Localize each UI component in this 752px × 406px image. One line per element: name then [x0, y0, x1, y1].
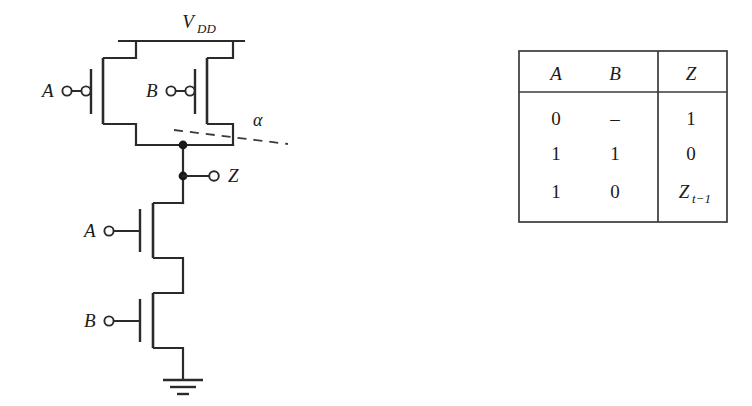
truth-table-header-z: Z [686, 63, 697, 84]
cell-a-row2: 1 [551, 181, 561, 202]
nmos-a-input-label: A [82, 220, 96, 241]
ground-icon [163, 380, 203, 394]
z-output-terminal[interactable] [209, 171, 219, 181]
vdd-label: V DD [182, 11, 216, 36]
cmos-circuit-group: V DD A [40, 11, 288, 394]
truth-table-row: 1 0 Z t−1 [551, 181, 711, 206]
pmos-b-input-terminal[interactable] [166, 86, 175, 95]
nmos-a-group: A [82, 203, 183, 293]
pmos-a-inverter-bubble-icon [81, 86, 90, 95]
junction-dot-top [179, 141, 188, 150]
truth-table-row: 0 – 1 [551, 108, 696, 129]
cell-a-row0: 0 [551, 108, 561, 129]
cell-z-row1: 0 [686, 143, 696, 164]
nmos-b-input-label: B [84, 310, 96, 331]
cell-a-row1: 1 [551, 143, 561, 164]
pmos-b-inverter-bubble-icon [185, 86, 194, 95]
truth-table-group: A B Z 0 – 1 1 1 0 1 0 Z t−1 [519, 51, 727, 222]
cell-z-row2: Z [679, 181, 690, 202]
truth-table-header-b: B [609, 63, 621, 84]
cell-b-row1: 1 [610, 143, 620, 164]
truth-table-header-a: A [548, 63, 562, 84]
pmos-a-drain-wire [104, 124, 136, 145]
cell-b-row0: – [609, 108, 620, 129]
vdd-label-main: V [182, 11, 196, 32]
vdd-label-subscript: DD [196, 21, 216, 36]
alpha-label: α [253, 110, 263, 130]
nmos-a-input-terminal[interactable] [104, 226, 113, 235]
pmos-b-group: B [146, 41, 233, 145]
cell-b-row2: 0 [610, 181, 620, 202]
pmos-a-input-label: A [40, 80, 54, 101]
z-output-label: Z [228, 165, 239, 186]
nmos-b-source-wire [154, 348, 183, 380]
pmos-a-source-wire [104, 41, 136, 58]
z-output-group: Z [183, 165, 239, 186]
cell-z-row0: 1 [686, 108, 696, 129]
nmos-a-source-wire [154, 258, 183, 293]
pmos-b-source-wire [208, 41, 233, 58]
figure-canvas: V DD A [0, 0, 752, 406]
truth-table-row: 1 1 0 [551, 143, 696, 164]
nmos-b-group: B [84, 293, 183, 380]
pmos-a-input-terminal[interactable] [62, 86, 71, 95]
cell-z-row2-subscript: t−1 [692, 191, 711, 206]
nmos-b-input-terminal[interactable] [104, 316, 113, 325]
alpha-dashed-line [174, 130, 288, 144]
pmos-b-input-label: B [146, 80, 158, 101]
pmos-a-group: A [40, 41, 136, 145]
